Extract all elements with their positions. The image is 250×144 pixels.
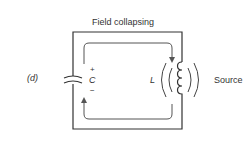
circuit-wire xyxy=(73,32,182,129)
current-flow-arrows xyxy=(84,43,172,119)
inductor-coil-icon xyxy=(178,62,183,98)
capacitor-icon xyxy=(64,76,82,83)
magnetic-field-arcs-icon xyxy=(162,63,199,97)
circuit-diagram xyxy=(0,0,250,144)
